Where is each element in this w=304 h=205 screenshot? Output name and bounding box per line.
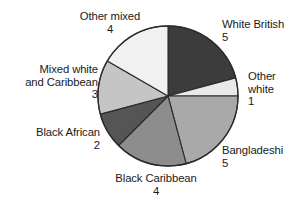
pie-label-other-white-name-line2: white	[248, 83, 298, 96]
pie-label-other-mixed-name: Other mixed	[62, 10, 158, 23]
pie-label-mixed-white-and-caribbean-name-line2: and Caribbean	[6, 76, 98, 89]
pie-label-mixed-white-and-caribbean-name-line1: Mixed white	[6, 63, 98, 76]
pie-label-mixed-white-and-caribbean-value: 3	[6, 88, 98, 101]
pie-label-other-white: Other white 1	[248, 70, 298, 108]
pie-label-white-british: White British 5	[222, 18, 304, 43]
pie-label-black-caribbean: Black Caribbean 4	[98, 172, 214, 197]
pie-label-black-african-value: 2	[6, 139, 100, 152]
pie-label-black-african-name: Black African	[6, 126, 100, 139]
pie-chart-figure: Other mixed 4 White British 5 Mixed whit…	[0, 0, 304, 205]
pie-label-white-british-name: White British	[222, 18, 304, 31]
pie-label-other-mixed: Other mixed 4	[62, 10, 158, 35]
pie-label-other-white-name-line1: Other	[248, 70, 298, 83]
pie-label-black-caribbean-name: Black Caribbean	[98, 172, 214, 185]
pie-label-white-british-value: 5	[222, 31, 304, 44]
pie-label-black-caribbean-value: 4	[98, 185, 214, 198]
pie-label-bangladeshi: Bangladeshi 5	[222, 144, 302, 169]
pie-label-mixed-white-and-caribbean: Mixed white and Caribbean 3	[6, 63, 98, 101]
pie-label-other-mixed-value: 4	[62, 23, 158, 36]
pie-label-black-african: Black African 2	[6, 126, 100, 151]
pie-slice-group	[98, 26, 238, 166]
pie-label-bangladeshi-value: 5	[222, 157, 302, 170]
pie-label-bangladeshi-name: Bangladeshi	[222, 144, 302, 157]
pie-label-other-white-value: 1	[248, 95, 298, 108]
